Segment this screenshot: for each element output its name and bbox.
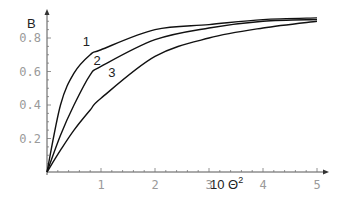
x-axis-label: 10 Θ2	[210, 175, 243, 192]
x-tick-label: 1	[97, 178, 104, 192]
y-tick-label: 0.4	[19, 98, 41, 112]
curve-label-2: 2	[94, 53, 101, 68]
y-axis-label: B	[27, 16, 36, 31]
chart: 123450.20.40.60.8B10 Θ2 123	[0, 0, 341, 216]
y-tick-label: 0.8	[19, 31, 41, 45]
x-tick-label: 5	[313, 178, 320, 192]
x-axis-arrow-icon	[323, 170, 329, 175]
axes: 123450.20.40.60.8B10 Θ2	[19, 9, 329, 192]
x-tick-label: 2	[151, 178, 158, 192]
curve-label-1: 1	[83, 34, 90, 49]
curve-label-3: 3	[108, 65, 115, 80]
y-tick-label: 0.2	[19, 132, 41, 146]
x-tick-label: 4	[259, 178, 266, 192]
y-axis-arrow-icon	[45, 9, 50, 15]
y-tick-label: 0.6	[19, 65, 41, 79]
